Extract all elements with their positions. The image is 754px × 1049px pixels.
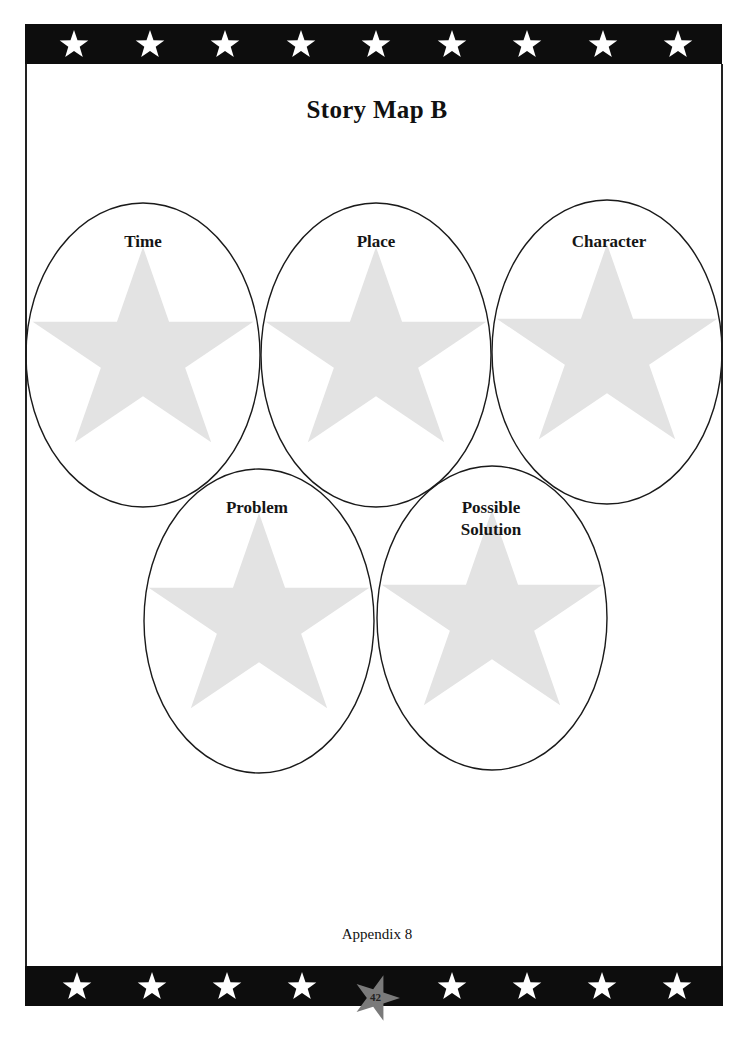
label-solution: Solution — [436, 519, 546, 541]
label-character: Character — [549, 231, 669, 253]
label-possible: Possible — [436, 497, 546, 519]
appendix-label: Appendix 8 — [0, 926, 754, 943]
label-time: Time — [93, 231, 193, 253]
story-map-diagram — [0, 0, 754, 1049]
label-possible-solution: Possible Solution — [436, 497, 546, 541]
label-place: Place — [326, 231, 426, 253]
page-number: 42 — [370, 991, 381, 1003]
label-problem: Problem — [207, 497, 307, 519]
